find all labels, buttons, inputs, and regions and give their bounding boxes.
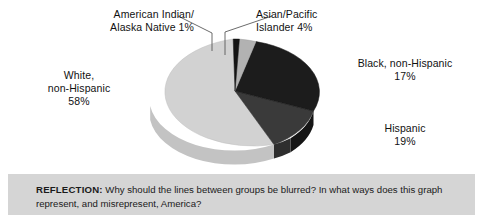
label-black-non-hispanic: Black, non-Hispanic 17% <box>330 57 480 83</box>
label-hispanic: Hispanic 19% <box>330 122 480 148</box>
label-hispanic-line1: Hispanic <box>330 122 480 135</box>
label-american-indian: American Indian/ Alaska Native 1% <box>62 8 194 34</box>
label-white-line1: White, <box>14 69 144 82</box>
reflection-label: REFLECTION: <box>36 184 103 195</box>
label-american-indian-line2: Alaska Native 1% <box>62 21 194 34</box>
label-white-line2: non-Hispanic <box>14 82 144 95</box>
label-american-indian-line1: American Indian/ <box>62 8 194 21</box>
reflection-text: REFLECTION: Why should the lines between… <box>36 183 463 210</box>
label-asian-pacific-line1: Asian/Pacific <box>256 8 376 21</box>
label-hispanic-line2: 19% <box>330 135 480 148</box>
pie-chart-figure: American Indian/ Alaska Native 1% Asian/… <box>0 0 483 215</box>
label-white-non-hispanic: White, non-Hispanic 58% <box>14 69 144 108</box>
label-white-line3: 58% <box>14 95 144 108</box>
label-asian-pacific-line2: Islander 4% <box>256 21 376 34</box>
label-black-line1: Black, non-Hispanic <box>330 57 480 70</box>
reflection-box: REFLECTION: Why should the lines between… <box>8 174 475 215</box>
label-black-line2: 17% <box>330 70 480 83</box>
label-asian-pacific: Asian/Pacific Islander 4% <box>256 8 376 34</box>
